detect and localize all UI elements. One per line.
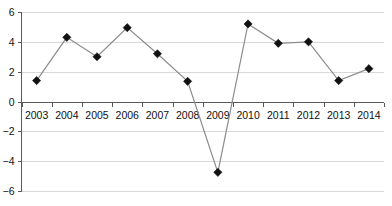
x-tick-label: 2004	[55, 109, 79, 121]
x-tick-label: 2009	[206, 109, 230, 121]
y-tick-label: −6	[3, 185, 15, 197]
y-tick-label: 4	[9, 36, 15, 48]
x-tick-label: 2013	[327, 109, 351, 121]
x-tick-label: 2012	[297, 109, 321, 121]
x-tick-label: 2014	[357, 109, 381, 121]
x-tick-label: 2007	[146, 109, 170, 121]
x-tick-label: 2008	[176, 109, 200, 121]
y-tick-label: −4	[3, 155, 15, 167]
chart-canvas: 6420−2−4−6 20032004200520062007200820092…	[0, 0, 392, 206]
y-tick-label: 2	[9, 66, 15, 78]
x-tick-label: 2006	[116, 109, 140, 121]
x-tick-label: 2003	[25, 109, 49, 121]
y-tick-label: −2	[3, 125, 15, 137]
y-tick-label: 6	[9, 6, 15, 18]
x-tick-label: 2011	[267, 109, 290, 121]
x-tick-label: 2010	[236, 109, 260, 121]
y-tick-label: 0	[9, 96, 15, 108]
x-tick-label: 2005	[85, 109, 109, 121]
line-chart: 6420−2−4−6 20032004200520062007200820092…	[0, 0, 392, 206]
